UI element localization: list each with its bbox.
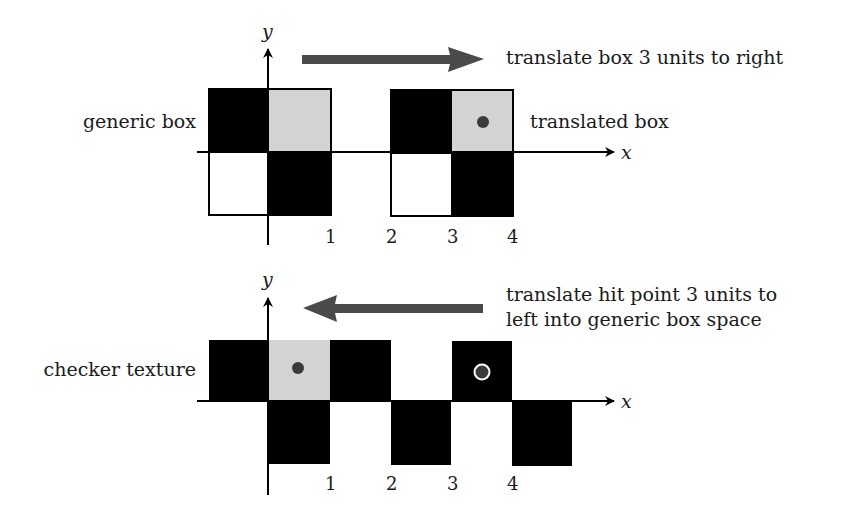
generic-box-label: generic box [83, 110, 196, 132]
cell-black [209, 340, 269, 401]
cell-black [269, 401, 330, 464]
bottom-panel: y x 1 2 3 4 checker texture translate hi… [44, 268, 778, 495]
checker-texture-label: checker texture [44, 358, 196, 380]
top-panel: y x 1 2 3 4 generic box translated box t… [83, 20, 784, 247]
tick-label-2: 2 [386, 473, 397, 494]
y-axis-label: y [261, 268, 273, 290]
translate-left-arrow-icon [303, 295, 483, 322]
translate-left-caption-line2: left into generic box space [506, 308, 762, 330]
cell-black [209, 89, 269, 152]
cell-black [512, 402, 572, 466]
tick-label-4: 4 [507, 473, 518, 494]
translate-right-caption: translate box 3 units to right [506, 46, 783, 68]
texture-translation-diagram: y x 1 2 3 4 generic box translated box t… [0, 0, 860, 515]
checker-texture [209, 340, 572, 466]
translate-right-arrow-icon [302, 47, 484, 72]
tick-label-1: 1 [325, 226, 336, 247]
tick-label-3: 3 [447, 473, 458, 494]
cell-black [452, 153, 513, 216]
cell-white [391, 153, 452, 216]
cell-gray [269, 89, 331, 152]
tick-label-3: 3 [447, 226, 458, 247]
hit-point-dot [477, 116, 489, 128]
cell-white [209, 152, 269, 215]
tick-label-2: 2 [386, 226, 397, 247]
mapped-hit-point-dot [292, 362, 304, 374]
x-axis-label: x [621, 390, 632, 412]
tick-label-1: 1 [325, 473, 336, 494]
hit-point-circled-dot [475, 365, 490, 380]
translate-left-caption-line1: translate hit point 3 units to [506, 283, 777, 305]
cell-black [391, 90, 452, 153]
cell-black [330, 340, 391, 401]
tick-label-4: 4 [507, 226, 518, 247]
cell-black [269, 152, 331, 215]
translated-box-label: translated box [530, 110, 669, 132]
x-axis-label: x [621, 141, 632, 163]
cell-black [391, 401, 451, 465]
y-axis-label: y [261, 20, 273, 42]
